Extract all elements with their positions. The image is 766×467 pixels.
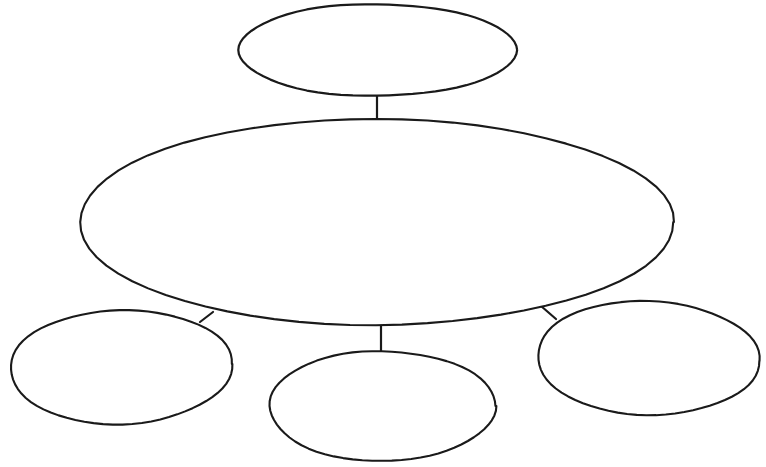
top-oval-outline (238, 4, 517, 95)
top-oval[interactable] (238, 4, 517, 95)
bottom-center-oval[interactable] (270, 351, 497, 461)
bottom-center-oval-outline (270, 351, 497, 461)
center-oval[interactable] (80, 119, 674, 325)
concept-map-diagram (0, 0, 766, 467)
diagram-canvas (0, 0, 766, 467)
center-oval-outline (80, 119, 674, 325)
